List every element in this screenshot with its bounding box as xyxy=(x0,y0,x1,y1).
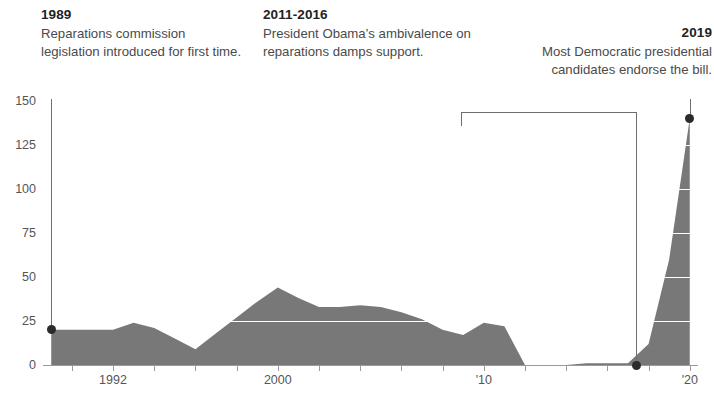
x-axis-label-2000: 2000 xyxy=(248,374,308,387)
x-axis-tick-1994 xyxy=(154,366,155,371)
gridline-100 xyxy=(43,189,698,190)
y-axis-label-25: 25 xyxy=(0,315,36,327)
annotation-2019-text: Most Democratic presidential candidates … xyxy=(483,43,712,78)
x-axis-label-1992: 1992 xyxy=(83,374,143,387)
y-axis-label-150: 150 xyxy=(0,95,36,107)
chart-canvas: 1989 Reparations commission legislation … xyxy=(0,0,714,395)
x-axis-label-2020: '20 xyxy=(660,374,714,387)
x-axis-tick-2006 xyxy=(401,366,402,371)
x-axis-tick-2008 xyxy=(443,366,444,371)
gridline-125 xyxy=(43,145,698,146)
annotation-2019-year: 2019 xyxy=(483,24,712,41)
x-axis-tick-2018 xyxy=(649,366,650,371)
y-axis-label-75: 75 xyxy=(0,227,36,239)
connector-2011-right xyxy=(636,112,637,365)
x-axis-tick-2012 xyxy=(525,366,526,371)
x-axis-line xyxy=(43,365,698,366)
annotation-1989: 1989 Reparations commission legislation … xyxy=(41,6,246,60)
x-axis-tick-2020 xyxy=(690,366,691,371)
annotation-1989-text: Reparations commission legislation intro… xyxy=(41,25,246,60)
marker-dot-2011 xyxy=(632,361,641,370)
annotation-2019: 2019 Most Democratic presidential candid… xyxy=(483,24,712,78)
annotation-2011-2016-text: President Obama’s ambivalence on reparat… xyxy=(263,25,478,60)
x-axis-tick-1990 xyxy=(72,366,73,371)
connector-2011-top xyxy=(461,112,636,113)
x-axis-tick-2010 xyxy=(484,366,485,371)
gridline-50 xyxy=(43,277,698,278)
x-axis-label-2010: '10 xyxy=(454,374,514,387)
gridline-150 xyxy=(43,101,698,102)
y-axis-label-0: 0 xyxy=(0,359,36,371)
x-axis-tick-2002 xyxy=(319,366,320,371)
marker-dot-1989 xyxy=(47,325,56,334)
x-axis-tick-1996 xyxy=(195,366,196,371)
plot-area xyxy=(43,101,698,365)
x-axis-tick-1998 xyxy=(237,366,238,371)
annotation-2011-2016: 2011-2016 President Obama’s ambivalence … xyxy=(263,6,478,60)
annotation-2011-2016-year: 2011-2016 xyxy=(263,6,478,23)
x-axis-tick-1992 xyxy=(113,366,114,371)
annotation-1989-year: 1989 xyxy=(41,6,246,23)
x-axis-tick-2016 xyxy=(607,366,608,371)
y-axis-label-125: 125 xyxy=(0,139,36,151)
connector-1989 xyxy=(51,99,52,330)
y-axis-label-50: 50 xyxy=(0,271,36,283)
x-axis-tick-2000 xyxy=(278,366,279,371)
x-axis-tick-2014 xyxy=(566,366,567,371)
connector-2011-left xyxy=(461,112,462,126)
x-axis-tick-2004 xyxy=(360,366,361,371)
gridline-75 xyxy=(43,233,698,234)
gridline-25 xyxy=(43,321,698,322)
y-axis-label-100: 100 xyxy=(0,183,36,195)
